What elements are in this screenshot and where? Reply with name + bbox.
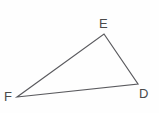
triangle-outline	[17, 34, 138, 97]
vertex-label-e: E	[99, 17, 108, 30]
geometry-figure: E D F	[0, 0, 159, 113]
triangle-drawing	[0, 0, 159, 113]
vertex-label-d: D	[139, 87, 148, 100]
vertex-label-f: F	[4, 90, 12, 103]
